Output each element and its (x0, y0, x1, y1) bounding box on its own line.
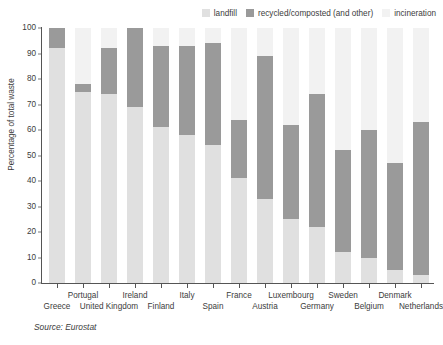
source-note: Source: Eurostat (34, 322, 96, 332)
x-axis-tick-label: Germany (300, 302, 334, 312)
bar-segment-incineration (413, 28, 429, 122)
plot-area (44, 28, 434, 283)
bar-segment-landfill (361, 258, 377, 284)
bar-column (309, 28, 325, 283)
x-axis-tick-label: Netherlands (399, 302, 443, 312)
chart-legend: landfillrecycled/composted (and other)in… (158, 6, 436, 20)
y-axis-tick-labels: 0102030405060708090100 (0, 24, 44, 287)
x-axis-tick-mark (213, 284, 214, 288)
bar-column (335, 28, 351, 283)
legend-label: recycled/composted (and other) (258, 9, 373, 18)
x-axis-tick-label: Spain (203, 302, 224, 312)
bar-segment-recycled (101, 48, 117, 94)
bar-segment-recycled (49, 28, 65, 48)
x-axis-tick-mark (57, 284, 58, 288)
bar-segment-recycled (205, 43, 221, 145)
bar-segment-recycled (257, 56, 273, 199)
bar-segment-recycled (153, 46, 169, 128)
bar-segment-landfill (335, 252, 351, 283)
bar-segment-landfill (387, 270, 403, 283)
bar-column (231, 28, 247, 283)
x-axis-tick-mark (421, 284, 422, 288)
bar-segment-landfill (309, 227, 325, 283)
bar-column (361, 28, 377, 283)
y-axis-tick-label: 90 (27, 50, 36, 58)
bar-segment-recycled (179, 46, 195, 135)
x-axis-tick-label: Italy (179, 291, 194, 301)
bar-segment-incineration (179, 28, 195, 46)
x-axis-tick-mark (395, 284, 396, 288)
x-axis-tick-mark (187, 284, 188, 288)
x-axis-tick-label: Belgium (354, 302, 384, 312)
bar-segment-incineration (283, 28, 299, 125)
bar-segment-landfill (283, 219, 299, 283)
bar-segment-landfill (75, 92, 91, 283)
bar-column (75, 28, 91, 283)
x-axis-tick-label: Denmark (378, 291, 411, 301)
bar-segment-landfill (231, 178, 247, 283)
x-axis-tick-label: Finland (148, 302, 175, 312)
bar-column (49, 28, 65, 283)
legend-item: recycled/composted (and other) (246, 9, 373, 18)
bar-segment-incineration (309, 28, 325, 94)
legend-label: incineration (394, 9, 436, 18)
x-axis-tick-label: Ireland (122, 291, 147, 301)
y-axis-tick-label: 60 (27, 126, 36, 134)
x-axis-tick-mark (291, 284, 292, 288)
bar-segment-recycled (309, 94, 325, 227)
legend-swatch-icon (382, 9, 390, 17)
bar-segment-incineration (335, 28, 351, 150)
legend-swatch-icon (246, 9, 254, 17)
bar-column (205, 28, 221, 283)
bar-segment-incineration (231, 28, 247, 120)
x-axis-tick-mark (369, 284, 370, 288)
x-axis-tick-mark (109, 284, 110, 288)
y-axis-tick-label: 80 (27, 75, 36, 83)
x-axis-tick-mark (343, 284, 344, 288)
bar-segment-incineration (153, 28, 169, 46)
bar-segment-incineration (205, 28, 221, 43)
bar-segment-landfill (257, 199, 273, 283)
y-axis-tick-label: 70 (27, 101, 36, 109)
bar-segment-landfill (179, 135, 195, 283)
y-axis-tick-label: 30 (27, 203, 36, 211)
x-axis-tick-label: France (226, 291, 251, 301)
bar-column (127, 28, 143, 283)
bar-segment-recycled (127, 28, 143, 107)
y-axis-tick-label: 10 (27, 254, 36, 262)
x-axis-tick-label: Austria (252, 302, 277, 312)
bar-segment-recycled (335, 150, 351, 252)
bar-segment-incineration (387, 28, 403, 163)
bar-segment-landfill (101, 94, 117, 283)
x-axis-tick-label: Sweden (328, 291, 358, 301)
x-axis-tick-mark (317, 284, 318, 288)
x-axis-tick-mark (83, 284, 84, 288)
bar-segment-landfill (49, 48, 65, 283)
bar-segment-landfill (205, 145, 221, 283)
legend-swatch-icon (202, 9, 210, 17)
legend-item: landfill (202, 9, 237, 18)
bar-column (413, 28, 429, 283)
bar-column (101, 28, 117, 283)
bar-segment-recycled (413, 122, 429, 275)
bar-segment-landfill (413, 275, 429, 283)
legend-label: landfill (214, 9, 237, 18)
legend-item: incineration (382, 9, 436, 18)
y-axis-tick-label: 0 (31, 279, 36, 287)
y-axis-tick-label: 20 (27, 228, 36, 236)
x-axis-tick-mark (161, 284, 162, 288)
bar-segment-recycled (283, 125, 299, 219)
bar-segment-incineration (101, 28, 117, 48)
x-axis-tick-mark (265, 284, 266, 288)
x-axis-tick-mark (239, 284, 240, 288)
bar-column (153, 28, 169, 283)
bar-segment-recycled (387, 163, 403, 270)
y-axis-tick-label: 100 (22, 24, 36, 32)
x-axis-tick-label: Portugal (68, 291, 99, 301)
y-axis-line (41, 27, 42, 284)
bar-segment-landfill (127, 107, 143, 283)
x-axis-tick-label: Luxembourg (268, 291, 314, 301)
x-axis-tick-label: United Kingdom (79, 302, 139, 312)
bar-segment-incineration (361, 28, 377, 130)
